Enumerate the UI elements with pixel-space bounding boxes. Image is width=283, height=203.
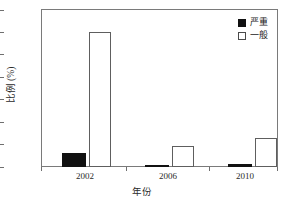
- x-axis-title: 年份: [0, 184, 283, 198]
- y-axis-title: 比例 (%): [3, 53, 17, 117]
- bar-severe-2006: [145, 165, 169, 167]
- bar-general-2010: [255, 138, 277, 167]
- x-tick-mark-right: [277, 167, 278, 171]
- x-axis-label-2002: 2002: [62, 171, 108, 181]
- open-square-icon: [238, 32, 246, 40]
- x-tick-mark-2: [209, 167, 210, 171]
- legend-label-severe: 严重: [250, 18, 268, 27]
- filled-square-icon: [238, 19, 246, 27]
- legend-label-general: 一般: [250, 31, 268, 40]
- y-tick-mark: [0, 144, 4, 145]
- legend-item-severe: 严重: [238, 16, 268, 29]
- bar-severe-2002: [62, 153, 86, 167]
- x-axis-label-2006: 2006: [145, 171, 191, 181]
- bar-general-2006: [172, 146, 194, 167]
- bar-chart: 70 60 50 40 30 20 10 0 比例 (%: [0, 0, 283, 203]
- y-tick-mark: [0, 122, 4, 123]
- x-tick-mark-1: [126, 167, 127, 171]
- y-tick-mark: [0, 10, 4, 11]
- legend: 严重 一般: [234, 14, 272, 45]
- bar-general-2002: [89, 32, 111, 167]
- legend-item-general: 一般: [238, 29, 268, 42]
- bar-severe-2010: [228, 164, 252, 167]
- x-axis-label-2010: 2010: [222, 171, 268, 181]
- plot-area: 严重 一般: [41, 9, 278, 167]
- y-tick-mark: [0, 32, 4, 33]
- y-tick-mark: [0, 167, 4, 168]
- x-tick-mark-left: [41, 167, 42, 171]
